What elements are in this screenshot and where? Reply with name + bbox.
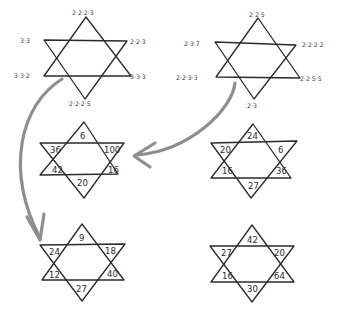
star-value-lower-right: 64 [274, 271, 285, 281]
star-value-top: 6 [80, 131, 85, 141]
factor-label-upper-left: 3·3 [20, 37, 30, 44]
star-value-top: 42 [247, 235, 258, 245]
star-value-bottom: 30 [247, 284, 258, 294]
factor-label-lower-left: 3·3·2 [14, 72, 30, 79]
star-value-top: 24 [247, 131, 258, 141]
star-value-upper-right: 6 [278, 145, 283, 155]
number-star-middle-right: 24 20 6 16 36 27 [211, 124, 297, 198]
star-value-lower-right: 36 [276, 166, 287, 176]
star-value-upper-right: 20 [274, 248, 285, 258]
star-value-upper-left: 20 [220, 145, 231, 155]
number-star-middle-left: 6 36 100 42 16 20 [40, 122, 124, 198]
star-value-lower-left: 16 [222, 166, 233, 176]
star-value-upper-left: 36 [50, 145, 61, 155]
number-star-bottom-left: 9 24 18 12 40 27 [40, 224, 125, 301]
number-star-bottom-right: 42 27 20 16 64 30 [210, 225, 294, 302]
factor-label-upper-left: 2·3·7 [184, 40, 200, 47]
star-value-lower-right: 16 [108, 165, 119, 175]
star-value-lower-left: 12 [49, 270, 60, 280]
factor-label-top: 2·2·2·3 [72, 9, 94, 16]
star-value-bottom: 27 [248, 181, 259, 191]
factor-label-lower-right: 3·3·3 [130, 73, 146, 80]
star-value-bottom: 27 [76, 284, 87, 294]
star-triangle-down [44, 40, 127, 99]
star-value-lower-left: 42 [52, 165, 63, 175]
star-value-upper-right: 18 [105, 246, 116, 256]
arrow-top-left-to-bottom-left [20, 79, 62, 238]
factor-star-top-left: 2·2·2·3 3·3 2·2·3 3·3·2 3·3·3 2·2·2·5 [14, 9, 146, 107]
factor-label-upper-right: 2·2·2·2 [302, 41, 324, 48]
factor-label-upper-right: 2·2·3 [130, 38, 146, 45]
factor-label-bottom: 2·2·2·5 [69, 100, 91, 107]
star-triangle-up [44, 17, 131, 76]
star-puzzle-diagram: 2·2·2·3 3·3 2·2·3 3·3·2 3·3·3 2·2·2·5 2·… [0, 0, 347, 317]
star-value-bottom: 20 [77, 178, 88, 188]
factor-label-lower-left: 2·2·3·3 [176, 74, 198, 81]
star-value-upper-left: 27 [221, 248, 232, 258]
star-triangle-up [216, 18, 300, 78]
star-triangle-down [215, 42, 296, 99]
factor-label-top: 2·2·5 [249, 11, 265, 18]
star-value-lower-right: 40 [107, 269, 118, 279]
star-value-top: 9 [79, 233, 84, 243]
star-value-lower-left: 16 [222, 271, 233, 281]
star-value-upper-right: 100 [104, 145, 120, 155]
factor-label-lower-right: 2·2·5·5 [300, 75, 322, 82]
factor-label-bottom: 2·3 [247, 102, 257, 109]
star-value-upper-left: 24 [49, 247, 60, 257]
factor-star-top-right: 2·2·5 2·3·7 2·2·2·2 2·2·3·3 2·2·5·5 2·3 [176, 11, 324, 109]
